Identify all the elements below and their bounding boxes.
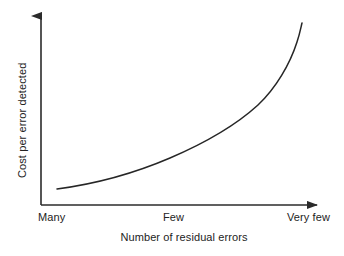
x-tick-label-many: Many — [38, 211, 65, 224]
x-axis-title: Number of residual errors — [0, 231, 344, 244]
cost-per-error-curve — [57, 23, 302, 189]
x-tick-label-very-few: Very few — [287, 211, 330, 224]
x-tick-label-few: Few — [163, 211, 184, 224]
chart-figure: Cost per error detected Many Few Very fe… — [0, 0, 344, 256]
y-axis-label: Cost per error detected — [16, 63, 29, 178]
